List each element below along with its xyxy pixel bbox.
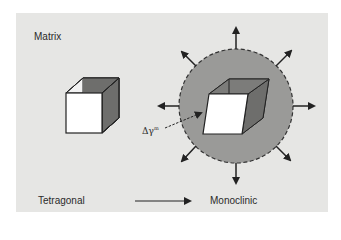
tetragonal-label: Tetragonal: [38, 195, 85, 206]
matrix-label: Matrix: [34, 31, 61, 42]
tetragonal-cube: [66, 78, 119, 133]
strain-symbol: Δγ: [142, 126, 154, 136]
strain-label: Δγm: [142, 125, 159, 136]
strain-superscript: m: [154, 125, 159, 131]
monoclinic-label: Monoclinic: [210, 195, 257, 206]
